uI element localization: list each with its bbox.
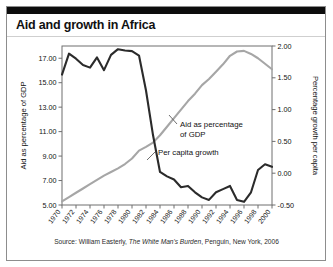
growth-annotation: Per capita growth: [158, 148, 219, 157]
x-ticklabel-3: 1976: [89, 208, 104, 225]
x-ticklabel-14: 1998: [243, 208, 258, 225]
y-ticklabel-left-6: 17.00: [39, 54, 57, 63]
growth-label-leader: [147, 152, 155, 160]
source-caption: Source: William Easterly, The White Man'…: [0, 238, 333, 245]
y-ticklabel-right-5: 2.00: [278, 42, 292, 51]
x-ticklabel-7: 1984: [145, 208, 160, 225]
x-ticklabel-1: 1972: [61, 208, 76, 225]
x-ticklabel-15: 2000: [257, 208, 272, 225]
x-ticklabel-12: 1994: [215, 208, 230, 225]
figure-container: Aid and growth in Africa 5.007.009.0011.…: [0, 0, 333, 267]
y-ticklabel-left-0: 5.00: [43, 201, 57, 210]
y-ticklabel-right-2: 0.50: [278, 137, 292, 146]
source-suffix: , Penguin, New York, 2006: [201, 238, 279, 245]
x-ticklabel-11: 1992: [201, 208, 216, 225]
x-ticklabel-2: 1974: [75, 208, 90, 225]
source-prefix: Source: William Easterly,: [54, 238, 129, 245]
x-ticklabel-5: 1980: [117, 208, 132, 225]
y-ticklabel-left-2: 9.00: [43, 152, 57, 161]
source-book-title: The White Man's Burden: [129, 238, 201, 245]
aid-annotation-line2: of GDP: [180, 130, 206, 139]
x-ticklabel-8: 1986: [159, 208, 174, 225]
chart-canvas: 5.007.009.0011.0013.0015.0017.00-0.500.0…: [0, 0, 333, 267]
aid-annotation-line1: Aid as percentage: [180, 120, 243, 129]
y-ticklabel-right-4: 1.50: [278, 73, 292, 82]
y-axis-title-left: Aid as percentage of GDP: [19, 81, 28, 169]
y-ticklabel-left-1: 7.00: [43, 176, 57, 185]
x-ticklabel-4: 1978: [103, 208, 118, 225]
x-ticklabel-13: 1996: [229, 208, 244, 225]
y-ticklabel-right-3: 1.00: [278, 105, 292, 114]
y-ticklabel-right-1: 0.00: [278, 169, 292, 178]
x-ticklabel-10: 1990: [187, 208, 202, 225]
y-ticklabel-left-3: 11.00: [39, 127, 56, 136]
y-ticklabel-left-5: 15.00: [39, 78, 57, 87]
y-ticklabel-left-4: 13.00: [39, 103, 57, 112]
y-ticklabel-right-0: -0.50: [278, 201, 294, 210]
y-axis-title-right: Percentage growth per capita: [311, 76, 320, 176]
x-ticklabel-9: 1988: [173, 208, 188, 225]
x-ticklabel-0: 1970: [47, 208, 62, 225]
x-ticklabel-6: 1982: [131, 208, 146, 225]
